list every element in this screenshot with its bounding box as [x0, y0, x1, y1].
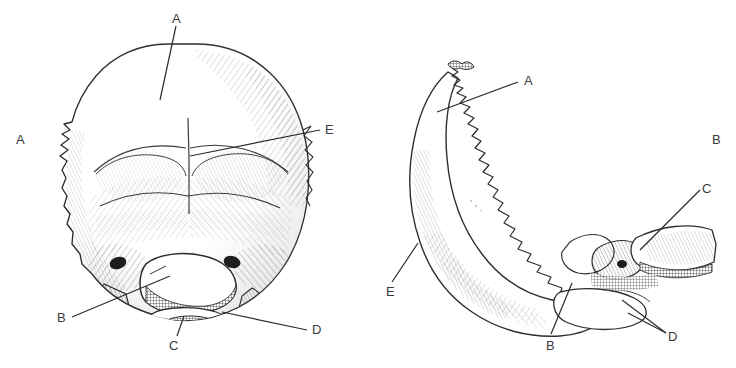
occipital-lateral-drawing: [392, 61, 716, 336]
sutural-bone: [448, 61, 474, 69]
label-right-c: C: [702, 182, 712, 195]
basilar-part: [150, 308, 229, 337]
leader-left-D: [222, 312, 307, 330]
leader-right-E: [392, 243, 418, 282]
hypoglossal-canal: [617, 260, 627, 268]
label-right-d: D: [668, 330, 678, 343]
label-right-e: E: [386, 285, 395, 298]
label-right-b: B: [546, 339, 555, 352]
label-left-b: B: [57, 311, 66, 324]
label-right-b-side: B: [712, 133, 721, 146]
label-right-a: A: [524, 74, 533, 87]
label-left-e: E: [325, 123, 334, 136]
label-left-d: D: [312, 323, 322, 336]
figure-artwork: [0, 0, 736, 368]
label-left-a-top: A: [172, 12, 181, 25]
occipital-posterior-drawing: [60, 26, 320, 337]
internal-crest: [470, 200, 562, 262]
label-left-c: C: [169, 339, 179, 352]
label-left-a-side: A: [16, 133, 25, 146]
anatomy-figure: A A E B C D A B C E B D: [0, 0, 736, 368]
